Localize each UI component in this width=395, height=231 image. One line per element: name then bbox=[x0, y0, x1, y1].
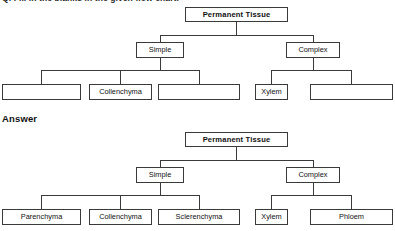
question-branch-complex-node: Complex bbox=[286, 42, 340, 58]
connector-question-complex-drop bbox=[313, 35, 314, 42]
connector-answer-simple-child-3-drop bbox=[199, 195, 200, 209]
connector-question-complex-bus bbox=[271, 70, 352, 71]
connector-answer-root-bus bbox=[160, 160, 313, 161]
question-answer-blank-2[interactable] bbox=[158, 84, 240, 100]
answer-root-node: Permanent Tissue bbox=[185, 132, 288, 147]
connector-answer-simple-drop bbox=[160, 160, 161, 167]
connector-question-simple-child-3-drop bbox=[199, 70, 200, 84]
connector-question-simple-stem bbox=[160, 58, 161, 70]
connector-answer-complex-bus bbox=[271, 195, 352, 196]
answer-complex-child-xylem: Xylem bbox=[255, 209, 288, 225]
question-simple-child-collenchyma: Collenchyma bbox=[89, 84, 152, 100]
worksheet-canvas: Q. Fill in the blanks in the given flow … bbox=[0, 0, 395, 231]
connector-answer-complex-child-1-drop bbox=[271, 195, 272, 209]
answer-branch-complex-node: Complex bbox=[286, 167, 340, 183]
question-answer-blank-1[interactable] bbox=[2, 84, 81, 100]
connector-question-complex-child-2-drop bbox=[351, 70, 352, 84]
question-answer-blank-3[interactable] bbox=[310, 84, 393, 100]
answer-section-label: Answer bbox=[2, 113, 37, 124]
connector-question-simple-child-1-drop bbox=[41, 70, 42, 84]
connector-answer-simple-child-2-drop bbox=[120, 195, 121, 209]
connector-question-root-stem bbox=[236, 22, 237, 35]
answer-simple-child-collenchyma: Collenchyma bbox=[89, 209, 152, 225]
connector-question-simple-child-2-drop bbox=[120, 70, 121, 84]
connector-question-complex-child-1-drop bbox=[271, 70, 272, 84]
answer-simple-child-parenchyma: Parenchyma bbox=[2, 209, 81, 225]
question-heading: Q. Fill in the blanks in the given flow … bbox=[2, 0, 179, 3]
connector-question-complex-stem bbox=[313, 58, 314, 70]
connector-question-root-bus bbox=[160, 35, 313, 36]
connector-answer-simple-child-1-drop bbox=[41, 195, 42, 209]
connector-answer-complex-stem bbox=[313, 183, 314, 195]
connector-answer-complex-drop bbox=[313, 160, 314, 167]
connector-question-simple-drop bbox=[160, 35, 161, 42]
question-branch-simple-node: Simple bbox=[136, 42, 184, 58]
answer-complex-child-phloem: Phloem bbox=[310, 209, 393, 225]
connector-answer-root-stem bbox=[236, 147, 237, 160]
question-root-node: Permanent Tissue bbox=[185, 7, 288, 22]
connector-answer-simple-stem bbox=[160, 183, 161, 195]
answer-simple-child-sclerenchyma: Sclerenchyma bbox=[158, 209, 240, 225]
answer-branch-simple-node: Simple bbox=[136, 167, 184, 183]
connector-answer-complex-child-2-drop bbox=[351, 195, 352, 209]
question-complex-child-xylem: Xylem bbox=[255, 84, 288, 100]
